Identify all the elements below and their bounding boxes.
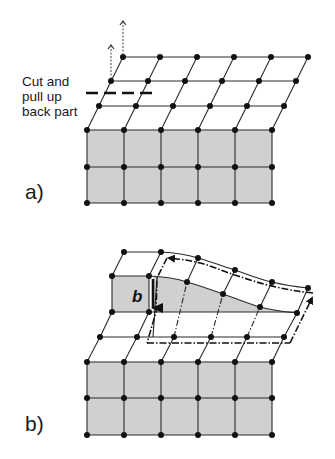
raised-block-face xyxy=(112,276,149,312)
cut-instruction-line: back part xyxy=(22,104,78,119)
panel-b-lattice: b xyxy=(84,249,313,438)
pull-up-arrows xyxy=(111,22,123,79)
panel-a-lattice xyxy=(84,22,311,206)
cut-instruction-label: Cut and pull up back part xyxy=(22,74,78,119)
lattice-diagram: b xyxy=(0,0,335,459)
cut-instruction-line: Cut and xyxy=(22,74,78,89)
panel-b-label: b) xyxy=(25,412,44,436)
panel-a-label: a) xyxy=(25,180,44,204)
cut-instruction-line: pull up xyxy=(22,89,78,104)
burgers-vector-label: b xyxy=(132,287,142,306)
